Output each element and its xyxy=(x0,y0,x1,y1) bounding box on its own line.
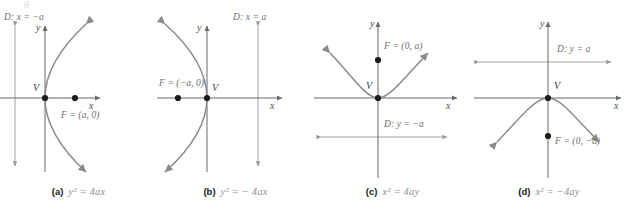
focus-label: F = (a, 0) xyxy=(61,110,100,120)
vertex-point xyxy=(375,95,381,101)
focus-point xyxy=(545,133,551,139)
panel-b-tag: (b) xyxy=(203,186,215,197)
directrix-label: D: y = a xyxy=(557,44,590,54)
panel-d-equation: x² = −4ay xyxy=(535,186,579,197)
y-axis-label: y xyxy=(540,18,545,29)
directrix-label: D: x = −a xyxy=(4,12,44,22)
panel-b: D: x = a y x V F = (−a, 0) (b)y² = − 4ax xyxy=(157,0,314,209)
panel-a: g D: x = −a y x V F = (a, 0) (a)y² = 4ax xyxy=(0,0,157,209)
vertex-label: V xyxy=(554,80,560,91)
vertex-label: V xyxy=(33,82,39,93)
y-axis-label: y xyxy=(197,22,202,33)
x-axis-label: x xyxy=(270,100,275,111)
directrix-label: D: y = −a xyxy=(384,119,424,129)
focus-label: F = (−a, 0) xyxy=(159,78,204,88)
page-artifact: g xyxy=(24,0,30,8)
panel-d-graph xyxy=(471,0,627,186)
panel-d: y x V F = (0, −a) D: y = a (d)x² = −4ay xyxy=(471,0,627,209)
directrix-label: D: x = a xyxy=(233,12,266,22)
panel-b-caption: (b)y² = − 4ax xyxy=(157,186,314,197)
panel-b-equation: y² = − 4ax xyxy=(221,186,268,197)
panel-a-tag: (a) xyxy=(52,186,64,197)
vertex-point xyxy=(204,95,210,101)
focus-point xyxy=(72,95,78,101)
focus-label: F = (0, a) xyxy=(384,41,423,51)
panel-c: y x V F = (0, a) D: y = −a (c)x² = 4ay xyxy=(314,0,471,209)
focus-point xyxy=(175,95,181,101)
panel-a-equation: y² = 4ax xyxy=(68,186,105,197)
panel-d-caption: (d)x² = −4ay xyxy=(471,186,627,197)
vertex-label: V xyxy=(366,80,372,91)
panel-c-tag: (c) xyxy=(366,186,378,197)
panel-c-caption: (c)x² = 4ay xyxy=(314,186,471,197)
panel-d-tag: (d) xyxy=(518,186,530,197)
panel-c-equation: x² = 4ay xyxy=(382,186,419,197)
x-axis-label: x xyxy=(614,100,619,111)
y-axis-label: y xyxy=(36,22,41,33)
panel-a-caption: (a)y² = 4ax xyxy=(0,186,157,197)
focus-label: F = (0, −a) xyxy=(555,136,600,146)
focus-point xyxy=(375,57,381,63)
y-axis-label: y xyxy=(370,18,375,29)
vertex-label: V xyxy=(212,82,218,93)
parabola-figure: g D: x = −a y x V F = (a, 0) (a)y² = 4ax xyxy=(0,0,627,209)
panel-c-graph xyxy=(314,0,471,186)
panel-a-graph xyxy=(0,0,157,186)
vertex-point xyxy=(545,95,551,101)
panel-b-graph xyxy=(157,0,314,186)
vertex-point xyxy=(42,95,48,101)
x-axis-label: x xyxy=(446,100,451,111)
